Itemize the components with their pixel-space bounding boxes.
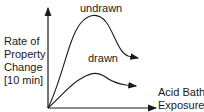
y-axis-label-line-4: [10 min] (4, 74, 43, 87)
x-axis-label-line-2: Exposure (158, 99, 204, 112)
drawn-curve-label: drawn (88, 52, 118, 65)
y-axis-label-line-3: Change (4, 61, 43, 74)
x-axis-label-line-1: Acid Bath (158, 86, 204, 99)
y-axis-label-line-2: Property (4, 48, 46, 61)
undrawn-curve-label: undrawn (80, 2, 122, 15)
y-axis-label-line-1: Rate of (4, 35, 39, 48)
drawn-curve (48, 74, 136, 108)
